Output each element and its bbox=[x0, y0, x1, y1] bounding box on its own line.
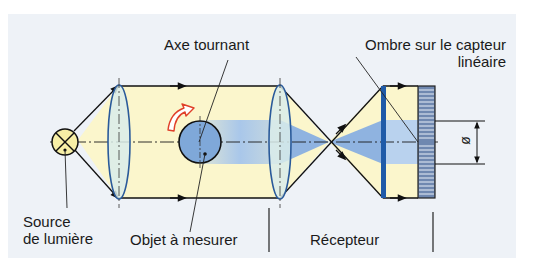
label-axe-tournant: Axe tournant bbox=[164, 36, 249, 53]
label-ombre-line2: linéaire bbox=[340, 53, 506, 70]
label-source-line1: Source bbox=[23, 213, 93, 230]
label-ombre-line1: Ombre sur le capteur bbox=[340, 36, 506, 53]
label-ombre-capteur: Ombre sur le capteur linéaire bbox=[340, 36, 506, 70]
label-source-line2: de lumière bbox=[23, 230, 93, 247]
label-recepteur: Récepteur bbox=[310, 231, 379, 248]
receiver-plate bbox=[381, 86, 386, 198]
linear-sensor-icon bbox=[418, 86, 435, 198]
diameter-symbol: ø bbox=[457, 136, 474, 145]
label-source-lumiere: Source de lumière bbox=[23, 213, 93, 247]
label-objet-a-mesurer: Objet à mesurer bbox=[130, 231, 238, 248]
